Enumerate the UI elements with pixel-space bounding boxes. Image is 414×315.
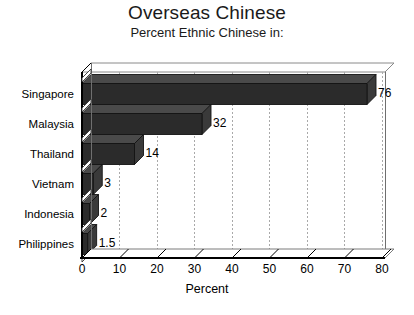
bar-value-label: 32: [213, 117, 226, 129]
y-axis-label: Singapore: [22, 88, 74, 100]
bar-value-label: 14: [146, 147, 159, 159]
x-tick-label: 0: [67, 262, 97, 276]
plot-area: SingaporeMalaysiaThailandVietnamIndonesi…: [0, 0, 414, 315]
chart-root: Overseas Chinese Percent Ethnic Chinese …: [0, 0, 414, 315]
y-axis-label: Thailand: [30, 148, 74, 160]
x-axis-title: Percent: [0, 282, 414, 296]
y-axis-label: Indonesia: [24, 208, 74, 220]
bar-value-label: 3: [104, 177, 111, 189]
x-tick-label: 40: [217, 262, 247, 276]
bar-value-label: 76: [378, 87, 391, 99]
x-tick-label: 80: [367, 262, 397, 276]
y-axis-label: Philippines: [18, 238, 74, 250]
x-tick-label: 10: [105, 262, 135, 276]
x-tick-label: 20: [142, 262, 172, 276]
y-axis-label: Malaysia: [29, 118, 74, 130]
bar-value-label: 2: [101, 207, 108, 219]
x-tick-label: 70: [330, 262, 360, 276]
x-tick-label: 30: [180, 262, 210, 276]
x-tick-label: 60: [292, 262, 322, 276]
y-axis-label: Vietnam: [32, 178, 74, 190]
x-tick-label: 50: [255, 262, 285, 276]
bar-value-label: 1.5: [99, 237, 116, 249]
